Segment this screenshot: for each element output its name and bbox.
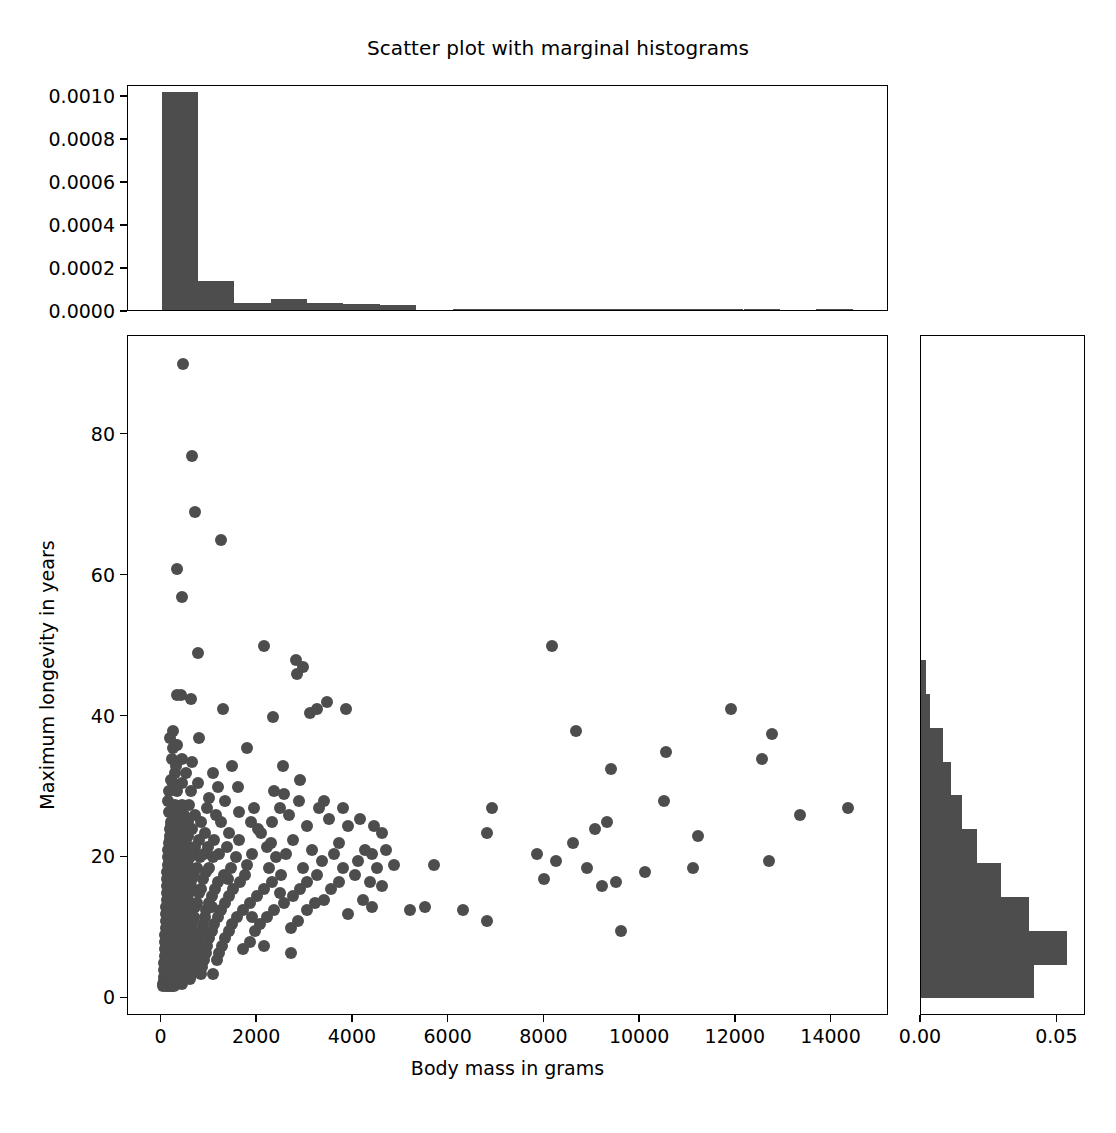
scatter-point xyxy=(337,802,349,814)
scatter-point xyxy=(605,763,617,775)
main-x-tick xyxy=(447,1015,449,1022)
scatter-point xyxy=(301,904,313,916)
scatter-point xyxy=(325,883,337,895)
scatter-point xyxy=(639,866,651,878)
scatter-point xyxy=(842,802,854,814)
scatter-point xyxy=(354,813,366,825)
scatter-point xyxy=(349,869,361,881)
scatter-point xyxy=(380,844,392,856)
top-histogram-bars xyxy=(128,86,887,310)
scatter-point xyxy=(195,968,207,980)
scatter-point xyxy=(301,820,313,832)
scatter-point xyxy=(570,725,582,737)
histogram-bar xyxy=(343,304,379,310)
scatter-point xyxy=(340,703,352,715)
scatter-point xyxy=(337,862,349,874)
histogram-bar xyxy=(921,863,1001,897)
main-y-tick xyxy=(120,997,127,999)
scatter-point xyxy=(219,795,231,807)
scatter-point xyxy=(207,767,219,779)
main-x-label: 2000 xyxy=(232,1025,280,1047)
scatter-point xyxy=(168,961,180,973)
scatter-point xyxy=(596,880,608,892)
scatter-point xyxy=(601,816,613,828)
scatter-point xyxy=(687,862,699,874)
scatter-point xyxy=(266,816,278,828)
scatter-point xyxy=(167,943,179,955)
scatter-point xyxy=(342,820,354,832)
scatter-point xyxy=(610,876,622,888)
main-y-label: 40 xyxy=(91,705,115,727)
scatter-point xyxy=(283,809,295,821)
scatter-point xyxy=(217,703,229,715)
scatter-point xyxy=(567,837,579,849)
scatter-point xyxy=(311,869,323,881)
scatter-point xyxy=(265,837,277,849)
scatter-point xyxy=(328,848,340,860)
main-x-tick xyxy=(638,1015,640,1022)
histogram-bar xyxy=(307,303,343,310)
scatter-point xyxy=(660,746,672,758)
scatter-point xyxy=(285,947,297,959)
scatter-point xyxy=(207,968,219,980)
top-hist-y-label: 0.0010 xyxy=(49,85,115,107)
main-y-tick xyxy=(120,856,127,858)
scatter-point xyxy=(794,809,806,821)
scatter-point xyxy=(366,848,378,860)
main-y-label: 20 xyxy=(91,845,115,867)
main-x-tick xyxy=(543,1015,545,1022)
main-y-tick xyxy=(120,433,127,435)
scatter-point xyxy=(233,806,245,818)
scatter-point xyxy=(589,823,601,835)
scatter-point xyxy=(323,813,335,825)
scatter-point xyxy=(364,876,376,888)
top-hist-y-tick xyxy=(120,95,127,97)
histogram-bar xyxy=(671,309,707,311)
scatter-point xyxy=(658,795,670,807)
scatter-point xyxy=(212,781,224,793)
scatter-point xyxy=(352,855,364,867)
scatter-point xyxy=(481,827,493,839)
top-hist-y-tick xyxy=(120,267,127,269)
histogram-bar xyxy=(453,309,489,311)
right-hist-x-label: 0.00 xyxy=(899,1025,941,1047)
scatter-point xyxy=(185,693,197,705)
histogram-bar xyxy=(634,309,670,311)
scatter-point xyxy=(176,591,188,603)
scatter-point xyxy=(263,862,275,874)
scatter-point xyxy=(376,880,388,892)
scatter-point xyxy=(294,774,306,786)
top-hist-y-tick xyxy=(120,310,127,312)
histogram-bar xyxy=(271,299,307,310)
main-y-tick xyxy=(120,574,127,576)
histogram-bar xyxy=(921,728,943,762)
scatter-point xyxy=(342,908,354,920)
main-x-tick xyxy=(734,1015,736,1022)
scatter-point xyxy=(278,788,290,800)
scatter-point xyxy=(165,820,177,832)
top-marginal-histogram-axes xyxy=(127,85,888,311)
right-hist-x-label: 0.05 xyxy=(1035,1025,1077,1047)
scatter-point xyxy=(189,506,201,518)
scatter-point xyxy=(457,904,469,916)
scatter-point xyxy=(316,855,328,867)
top-hist-y-label: 0.0008 xyxy=(49,128,115,150)
scatter-point xyxy=(285,922,297,934)
scatter-point xyxy=(293,795,305,807)
scatter-point xyxy=(486,802,498,814)
x-axis-title: Body mass in grams xyxy=(127,1057,888,1079)
scatter-point xyxy=(258,640,270,652)
main-x-tick xyxy=(830,1015,832,1022)
scatter-point xyxy=(725,703,737,715)
histogram-bar xyxy=(380,305,416,310)
scatter-point xyxy=(177,358,189,370)
scatter-point xyxy=(763,855,775,867)
scatter-point xyxy=(165,774,177,786)
scatter-point xyxy=(192,647,204,659)
histogram-bar xyxy=(921,965,1034,999)
scatter-point xyxy=(203,792,215,804)
main-x-tick xyxy=(160,1015,162,1022)
top-hist-y-tick xyxy=(120,181,127,183)
histogram-bar xyxy=(234,303,270,310)
figure-canvas: Scatter plot with marginal histograms 0.… xyxy=(0,0,1116,1133)
